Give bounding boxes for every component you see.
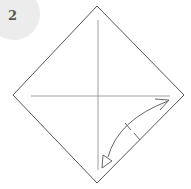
origami-diagram	[0, 0, 191, 189]
paper-square	[13, 6, 184, 183]
